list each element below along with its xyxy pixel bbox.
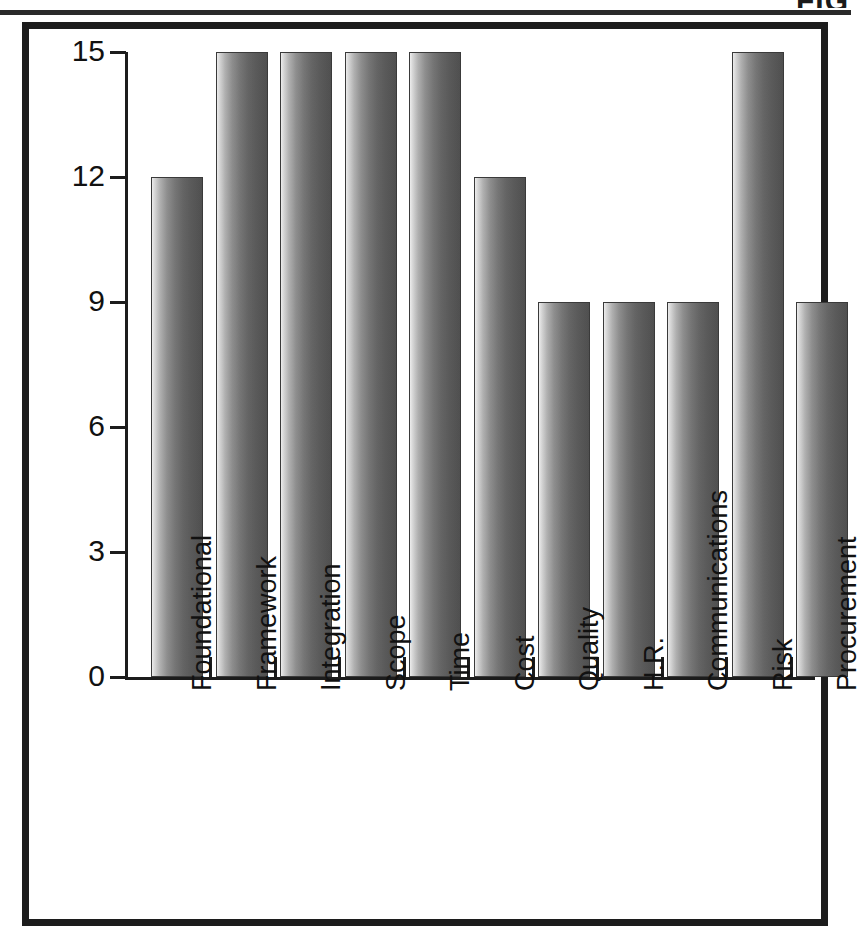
y-tick-label: 0 bbox=[45, 661, 105, 691]
y-tick-label: 15 bbox=[45, 36, 105, 66]
x-axis-label: Integration bbox=[318, 563, 345, 691]
y-tick-mark bbox=[110, 176, 126, 179]
x-axis-label: Risk bbox=[770, 639, 797, 692]
y-axis-line bbox=[125, 52, 128, 680]
y-tick-label: 12 bbox=[45, 161, 105, 191]
x-axis-label: Cost bbox=[512, 635, 539, 691]
page-header-rule bbox=[0, 10, 851, 15]
x-axis-label: Scope bbox=[383, 614, 410, 691]
bar bbox=[474, 177, 526, 677]
bar bbox=[603, 302, 655, 677]
y-tick-mark bbox=[110, 426, 126, 429]
figure-frame: 03691215 FoundationalFrameworkIntegratio… bbox=[22, 22, 828, 926]
x-axis-label: Foundational bbox=[189, 535, 216, 691]
x-axis-label: Procurement bbox=[834, 536, 861, 691]
y-tick-mark bbox=[110, 51, 126, 54]
x-axis-label: H.R. bbox=[641, 637, 668, 691]
x-axis-label: Quality bbox=[576, 607, 603, 691]
bar bbox=[345, 52, 397, 677]
y-tick-mark bbox=[110, 676, 126, 679]
y-tick-label: 6 bbox=[45, 411, 105, 441]
bar-chart: 03691215 FoundationalFrameworkIntegratio… bbox=[29, 29, 821, 919]
y-tick-label: 3 bbox=[45, 536, 105, 566]
bar bbox=[409, 52, 461, 677]
y-tick-label: 9 bbox=[45, 286, 105, 316]
y-tick-mark bbox=[110, 551, 126, 554]
y-axis-tick-labels: 03691215 bbox=[29, 29, 105, 689]
x-axis-label: Time bbox=[447, 632, 474, 691]
y-tick-mark bbox=[110, 301, 126, 304]
x-axis-label: Framework bbox=[254, 556, 281, 691]
x-axis-label: Communications bbox=[705, 490, 732, 691]
figure-caption: FIG bbox=[796, 0, 849, 8]
bar bbox=[732, 52, 784, 677]
